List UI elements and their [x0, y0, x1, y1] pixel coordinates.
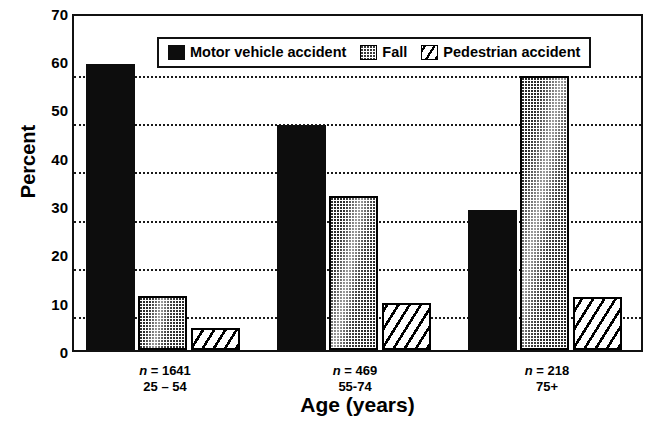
y-tick-60: 60 [28, 55, 68, 70]
group-n-55-74: n = 469 [295, 363, 415, 379]
bar-pedestrian-55-74 [382, 303, 431, 350]
bar-pedestrian-25-54 [191, 328, 240, 350]
bar-fall-55-74 [329, 196, 378, 350]
group-n-25-54: n = 1641 [105, 363, 225, 379]
bar-fall-75plus [520, 76, 569, 350]
legend-entry-pedestrian-accident: Pedestrian accident [421, 45, 580, 60]
y-tick-40: 40 [28, 152, 68, 167]
y-tick-10: 10 [28, 297, 68, 312]
group-n-75plus: n = 218 [487, 363, 607, 379]
legend-label-motor-vehicle-accident: Motor vehicle accident [190, 45, 346, 60]
figure-caption [4, 430, 424, 440]
legend-entry-motor-vehicle-accident: Motor vehicle accident [168, 45, 346, 60]
bar-motor-25-54 [86, 64, 135, 350]
bar-motor-75plus [468, 210, 517, 350]
bar-chart-figure: Percent 70 60 50 40 30 20 10 0 [0, 0, 653, 440]
legend-entry-fall: Fall [360, 45, 407, 60]
bar-fall-25-54 [138, 296, 187, 350]
stipple-swatch-icon [360, 45, 377, 60]
legend: Motor vehicle accident Fall Pedestrian a… [157, 37, 591, 68]
bar-pedestrian-75plus [573, 297, 622, 350]
hatch-swatch-icon [421, 45, 438, 60]
bar-motor-55-74 [277, 125, 326, 350]
y-axis-tick-labels: 70 60 50 40 30 20 10 0 [24, 0, 68, 440]
group-n-value-25-54: = 1641 [147, 363, 191, 378]
x-axis-label: Age (years) [72, 393, 643, 417]
group-label-55-74: n = 469 55-74 [295, 363, 415, 396]
group-label-75plus: n = 218 75+ [487, 363, 607, 396]
solid-black-swatch-icon [168, 45, 185, 60]
y-tick-30: 30 [28, 200, 68, 215]
y-tick-50: 50 [28, 103, 68, 118]
y-tick-70: 70 [28, 7, 68, 22]
y-tick-0: 0 [28, 345, 68, 360]
group-n-value-55-74: = 469 [341, 363, 378, 378]
group-n-value-75plus: = 218 [533, 363, 570, 378]
legend-label-pedestrian-accident: Pedestrian accident [443, 45, 580, 60]
y-tick-20: 20 [28, 248, 68, 263]
legend-label-fall: Fall [382, 45, 407, 60]
group-label-25-54: n = 1641 25 – 54 [105, 363, 225, 396]
